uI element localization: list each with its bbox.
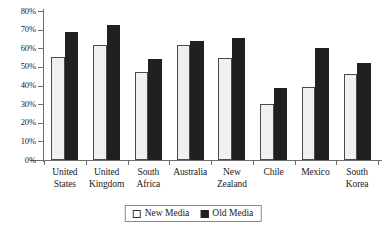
y-axis-tick-label-wrap: 0%: [0, 156, 36, 165]
bar-group: [128, 11, 170, 160]
bar-group: [86, 11, 128, 160]
bar-new-media: [218, 58, 232, 160]
y-axis-tick: [38, 86, 43, 87]
y-axis-tick-label-wrap: 80%: [0, 7, 36, 16]
y-axis-tick-label: 70%: [2, 25, 36, 34]
bar-old-media: [148, 59, 162, 161]
bar-new-media: [51, 57, 65, 160]
y-axis-tick-label-wrap: 30%: [0, 100, 36, 109]
x-axis-line: [30, 160, 382, 161]
y-axis-tick-label-wrap: 60%: [0, 44, 36, 53]
y-axis-tick: [38, 123, 43, 124]
category-label-line: Africa: [122, 179, 176, 191]
plot-area: [44, 11, 378, 160]
y-axis-tick-label: 80%: [2, 7, 36, 16]
y-axis-tick-label: 40%: [2, 81, 36, 90]
bar-old-media: [274, 88, 288, 160]
y-axis-tick-label-wrap: 70%: [0, 25, 36, 34]
bar-new-media: [260, 104, 274, 160]
filled-square-swatch: [200, 210, 208, 218]
bar-old-media: [107, 25, 121, 160]
bar-old-media: [190, 41, 204, 160]
bar-group: [44, 11, 86, 160]
y-axis-tick: [38, 48, 43, 49]
bar-group: [336, 11, 378, 160]
bar-new-media: [93, 45, 107, 160]
x-axis-tick: [295, 161, 296, 165]
x-axis-tick: [253, 161, 254, 165]
y-axis-tick-label-wrap: 50%: [0, 62, 36, 71]
y-axis-tick: [38, 104, 43, 105]
bar-new-media: [344, 74, 358, 160]
y-axis-tick: [38, 141, 43, 142]
y-axis-tick-label-wrap: 20%: [0, 118, 36, 127]
bar-old-media: [315, 48, 329, 160]
bar-group: [211, 11, 253, 160]
bar-new-media: [135, 72, 149, 160]
x-axis-tick: [336, 161, 337, 165]
legend-item[interactable]: New Media: [133, 208, 190, 219]
y-axis-tick: [38, 11, 43, 12]
x-axis-tick: [211, 161, 212, 165]
x-axis-tick: [378, 161, 379, 165]
y-axis-tick-label-wrap: 10%: [0, 137, 36, 146]
bar-old-media: [65, 32, 79, 161]
y-axis-tick-label: 10%: [2, 137, 36, 146]
x-axis-tick: [44, 161, 45, 165]
y-axis-tick-label: 20%: [2, 118, 36, 127]
y-axis-tick: [38, 160, 43, 161]
bar-old-media: [357, 63, 371, 160]
bar-new-media: [302, 87, 316, 160]
y-axis-tick-label: 60%: [2, 44, 36, 53]
category-label-line: South: [330, 167, 384, 179]
y-axis-tick-label-wrap: 40%: [0, 81, 36, 90]
x-axis-tick: [169, 161, 170, 165]
bar-group: [253, 11, 295, 160]
legend-item[interactable]: Old Media: [200, 208, 253, 219]
x-axis-category-label: SouthKorea: [330, 167, 384, 190]
open-square-swatch: [133, 210, 141, 218]
bar-group: [295, 11, 337, 160]
bar-group: [169, 11, 211, 160]
x-axis-tick: [86, 161, 87, 165]
legend-item-label: New Media: [145, 208, 190, 219]
y-axis-tick: [38, 67, 43, 68]
y-axis-tick-label: 50%: [2, 62, 36, 71]
category-label-line: Zealand: [205, 179, 259, 191]
y-axis-tick-label: 30%: [2, 100, 36, 109]
legend-item-label: Old Media: [212, 208, 253, 219]
x-axis-tick: [128, 161, 129, 165]
bar-new-media: [177, 45, 191, 160]
y-axis-tick: [38, 30, 43, 31]
category-label-line: Korea: [330, 179, 384, 191]
bar-chart-figure: 0%10%20%30%40%50%60%70%80% UnitedStatesU…: [0, 0, 386, 240]
bar-old-media: [232, 38, 246, 160]
chart-legend: New MediaOld Media: [125, 205, 262, 222]
y-axis-tick-label: 0%: [2, 156, 36, 165]
